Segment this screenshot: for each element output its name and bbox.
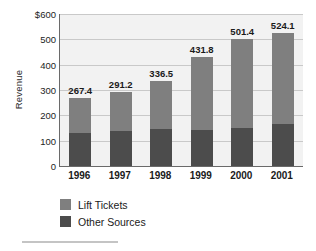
- bar-segment-lift-tickets[interactable]: [110, 92, 132, 131]
- x-axis-tick: 1999: [190, 170, 212, 181]
- bar-segment-other-sources[interactable]: [150, 129, 172, 166]
- x-axis-tick: 1998: [149, 170, 171, 181]
- bar-segment-other-sources[interactable]: [272, 124, 294, 166]
- legend-swatch-icon: [60, 199, 71, 210]
- legend-item[interactable]: Other Sources: [60, 213, 146, 230]
- bar-value-label: 501.4: [230, 26, 254, 37]
- bar-value-label: 431.8: [190, 44, 214, 55]
- x-axis-tick: 1996: [68, 170, 90, 181]
- stacked-bar-chart: Revenue 0100200300400500$600 267.4291.23…: [0, 0, 316, 251]
- legend-label: Other Sources: [78, 216, 146, 228]
- bar-group: 501.4: [222, 14, 263, 166]
- bar-segment-lift-tickets[interactable]: [69, 98, 91, 133]
- x-axis-tick: 2001: [271, 170, 293, 181]
- y-axis-tick: 200: [18, 110, 56, 121]
- bar-group: 336.5: [141, 14, 182, 166]
- legend-item[interactable]: Lift Tickets: [60, 196, 146, 213]
- y-axis-tick-labels: 0100200300400500$600: [18, 14, 56, 166]
- bar-segment-other-sources[interactable]: [110, 131, 132, 166]
- bar-segment-lift-tickets[interactable]: [150, 81, 172, 129]
- footer-rule: [22, 241, 118, 243]
- legend-swatch-icon: [60, 216, 71, 227]
- bar-segment-other-sources[interactable]: [69, 133, 91, 166]
- bar-stack[interactable]: [110, 92, 132, 166]
- bar-group: 431.8: [182, 14, 223, 166]
- y-axis-tick: 100: [18, 135, 56, 146]
- x-axis-tick: 2000: [230, 170, 252, 181]
- bar-stack[interactable]: [272, 33, 294, 166]
- bar-value-label: 267.4: [68, 85, 92, 96]
- bar-segment-lift-tickets[interactable]: [191, 57, 213, 130]
- legend-label: Lift Tickets: [78, 199, 128, 211]
- bar-segment-lift-tickets[interactable]: [231, 39, 253, 128]
- x-axis-tick: 1997: [109, 170, 131, 181]
- bar-group: 291.2: [101, 14, 142, 166]
- y-axis-tick: 0: [18, 161, 56, 172]
- chart-legend: Lift TicketsOther Sources: [60, 196, 146, 230]
- bar-stack[interactable]: [69, 98, 91, 166]
- bar-value-label: 524.1: [271, 20, 295, 31]
- bar-stack[interactable]: [191, 57, 213, 166]
- y-axis-tick: 400: [18, 59, 56, 70]
- y-axis-tick: $600: [18, 9, 56, 20]
- bar-stack[interactable]: [150, 81, 172, 166]
- plot-area: 267.4291.2336.5431.8501.4524.1: [59, 14, 303, 167]
- bar-value-label: 336.5: [149, 68, 173, 79]
- bar-value-label: 291.2: [109, 79, 133, 90]
- bar-stack[interactable]: [231, 39, 253, 166]
- bars-layer: 267.4291.2336.5431.8501.4524.1: [60, 14, 303, 166]
- bar-segment-other-sources[interactable]: [231, 128, 253, 166]
- y-axis-tick: 300: [18, 85, 56, 96]
- bar-group: 267.4: [60, 14, 101, 166]
- bar-group: 524.1: [263, 14, 304, 166]
- bar-segment-other-sources[interactable]: [191, 130, 213, 166]
- y-axis-tick: 500: [18, 34, 56, 45]
- x-axis-tick-labels: 199619971998199920002001: [59, 170, 302, 186]
- bar-segment-lift-tickets[interactable]: [272, 33, 294, 123]
